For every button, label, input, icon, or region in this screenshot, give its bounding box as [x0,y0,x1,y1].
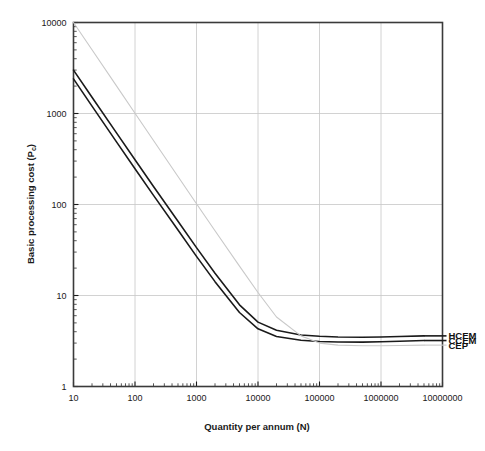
series-labels: HCEMCCEMCEP [449,330,477,350]
x-tick-label: 1000 [186,393,206,403]
series-line-ccem [74,79,424,342]
page-artifact-top [300,1,480,9]
series-line-hcem [74,70,424,337]
y-tick-label: 1 [61,382,66,392]
y-tick-label: 1000 [46,109,66,119]
y-axis-title: Basic processing cost (Pc) [25,144,37,264]
data-series-layer [74,23,424,346]
x-tick-label: 10000000 [422,393,462,403]
y-tick-label: 10 [56,291,66,301]
series-label-cep: CEP [449,340,469,351]
page-artifact-caption [6,441,476,450]
x-tick-label: 10 [68,393,78,403]
gridlines [74,23,443,387]
x-tick-label: 100000 [304,393,334,403]
log-log-line-chart: 10100100010000100000100000010000000 1101… [0,0,485,451]
x-axis-title: Quantity per annum (N) [204,421,310,432]
y-axis-title-text: Basic processing cost (P [25,150,36,264]
y-tick-label: 100 [51,200,66,210]
y-axis-tick-labels: 110100100010000 [41,18,66,392]
y-tick-label: 10000 [41,18,66,28]
minor-tick-marks [74,27,440,387]
x-tick-label: 100 [127,393,142,403]
chart-figure: 10100100010000100000100000010000000 1101… [0,0,485,451]
x-tick-label: 1000000 [363,393,398,403]
y-axis-title-tail: ) [25,144,36,147]
x-tick-label: 10000 [245,393,270,403]
series-line-cep [74,23,424,346]
x-axis-tick-labels: 10100100010000100000100000010000000 [68,393,462,403]
svg-text:Basic processing cost (Pc): Basic processing cost (Pc) [25,144,37,264]
